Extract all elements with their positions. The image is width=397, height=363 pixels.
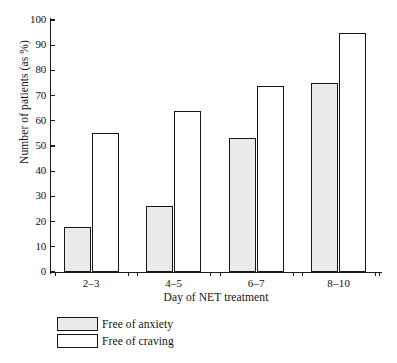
y-axis-tick-label: 20 [2,216,46,227]
bar-free-of-anxiety-2-3 [64,227,91,272]
bar-free-of-craving-2-3 [92,133,119,272]
plot-area [50,20,380,272]
bar-free-of-craving-4-5 [174,111,201,272]
bar-free-of-anxiety-8-10 [311,83,338,272]
x-axis-tick-label: 2–3 [61,277,121,289]
x-axis-tick-label: 6–7 [226,277,286,289]
x-axis-title: Day of NET treatment [50,291,382,303]
x-axis-tick [220,272,221,276]
y-axis-title: Number of patients (as %) [18,22,30,182]
x-axis-tick [375,272,376,276]
y-axis-tick-label: 0 [2,266,46,277]
x-axis-tick [55,272,56,276]
x-axis-tick [128,272,129,276]
y-axis-tick-label: 10 [2,241,46,252]
x-axis-tick [302,272,303,276]
legend-label: Free of craving [102,335,174,347]
legend-swatch-icon [57,334,98,348]
x-axis-tick-label: 8–10 [309,277,369,289]
x-axis-tick-label: 4–5 [144,277,204,289]
legend-label: Free of anxiety [102,318,173,330]
x-axis-tick [379,272,380,276]
legend-item-free-of-craving: Free of craving [57,332,174,349]
bar-free-of-anxiety-6-7 [229,138,256,272]
bar-free-of-craving-6-7 [257,86,284,272]
chart-legend: Free of anxietyFree of craving [57,315,174,349]
bar-free-of-craving-8-10 [339,33,366,272]
x-axis-tick [137,272,138,276]
bar-free-of-anxiety-4-5 [146,206,173,272]
legend-swatch-icon [57,317,98,331]
bar-chart-figure: 0102030405060708090100 Number of patient… [0,0,397,363]
x-axis-tick [210,272,211,276]
x-axis-tick [293,272,294,276]
y-axis-tick-label: 30 [2,190,46,201]
legend-item-free-of-anxiety: Free of anxiety [57,315,174,332]
